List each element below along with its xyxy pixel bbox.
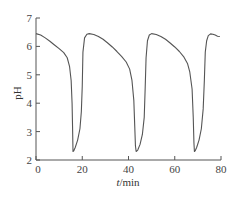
y-tick-label: 7: [27, 12, 33, 24]
x-axis-label: t/min: [116, 176, 140, 188]
x-tick-label: 60: [169, 163, 181, 175]
y-tick-label: 4: [27, 97, 33, 109]
y-tick-label: 2: [27, 154, 33, 166]
ph-oscillation-chart: 234567 020406080 pH t/min: [0, 0, 239, 197]
x-axis-label-unit: /min: [119, 176, 140, 188]
x-tick-label: 0: [35, 163, 41, 175]
axes: [36, 18, 221, 160]
x-tick-label: 20: [77, 163, 89, 175]
x-tick-label: 40: [123, 163, 135, 175]
ph-curve: [36, 34, 220, 152]
y-axis-label: pH: [11, 86, 23, 100]
x-ticks: 020406080: [35, 156, 227, 175]
x-tick-label: 80: [216, 163, 228, 175]
y-tick-label: 6: [27, 40, 33, 52]
y-ticks: 234567: [27, 12, 41, 166]
y-tick-label: 3: [27, 126, 33, 138]
y-tick-label: 5: [27, 69, 33, 81]
